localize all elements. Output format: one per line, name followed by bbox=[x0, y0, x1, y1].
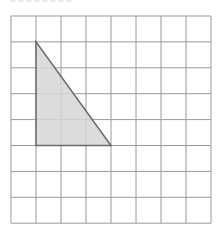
grid-figure bbox=[0, 0, 220, 228]
